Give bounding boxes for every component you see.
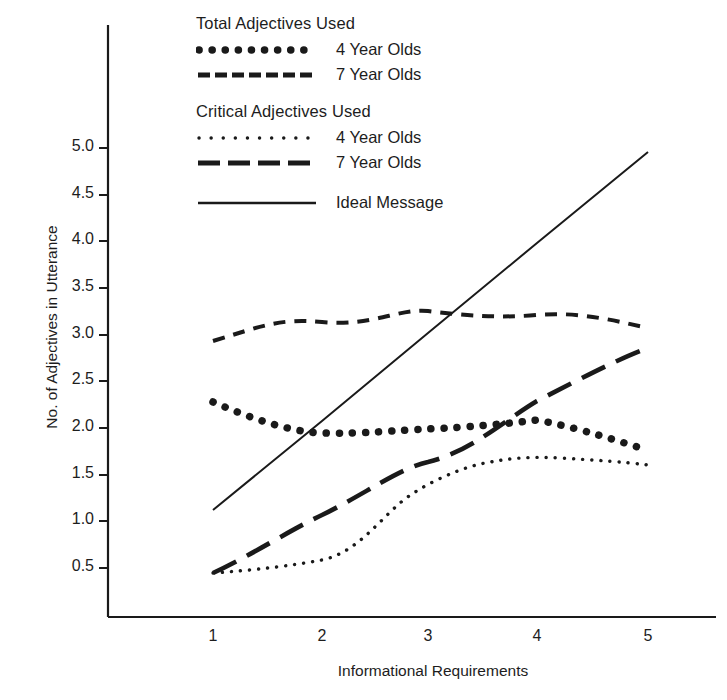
y-axis-title: No. of Adjectives in Utterance [43, 197, 61, 457]
legend-spacer [196, 175, 526, 190]
legend-item-ideal-message: Ideal Message [196, 190, 526, 215]
y-tick-label: 5.0 [46, 137, 94, 155]
x-tick-label: 5 [633, 627, 663, 645]
y-tick-label: 1.0 [46, 510, 94, 528]
legend-label-total-4-year-olds: 4 Year Olds [324, 40, 421, 59]
legend-swatch-solid-icon [196, 194, 324, 212]
y-tick-label: 1.5 [46, 464, 94, 482]
legend-group-total-heading: Total Adjectives Used [196, 14, 526, 33]
legend-swatch-thick-dotted-icon [196, 41, 324, 59]
chart-figure: 5.0 4.5 4.0 3.5 3.0 2.5 2.0 1.5 1.0 0.5 … [0, 0, 727, 700]
x-tick-label: 4 [522, 627, 552, 645]
legend-label-total-7-year-olds: 7 Year Olds [324, 65, 421, 84]
legend-item-critical-7-year-olds: 7 Year Olds [196, 150, 526, 175]
x-tick-label: 3 [413, 627, 443, 645]
y-axis-ticks [99, 148, 108, 568]
x-tick-label: 2 [307, 627, 337, 645]
legend-group-critical-heading: Critical Adjectives Used [196, 102, 526, 121]
series-total-4-year-olds [213, 402, 648, 450]
legend-label-ideal-message: Ideal Message [324, 193, 443, 212]
x-axis-title: Informational Requirements [213, 662, 653, 680]
series-critical-4-year-olds [213, 457, 648, 573]
legend-spacer [196, 87, 526, 102]
legend-item-total-7-year-olds: 7 Year Olds [196, 62, 526, 87]
legend-item-critical-4-year-olds: 4 Year Olds [196, 125, 526, 150]
legend-swatch-fine-dotted-icon [196, 129, 324, 147]
chart-legend: Total Adjectives Used 4 Year Olds 7 Year… [196, 14, 526, 215]
x-tick-label: 1 [198, 627, 228, 645]
legend-swatch-long-dashed-icon [196, 154, 324, 172]
y-tick-label: 0.5 [46, 557, 94, 575]
legend-label-critical-4-year-olds: 4 Year Olds [324, 128, 421, 147]
legend-item-total-4-year-olds: 4 Year Olds [196, 37, 526, 62]
legend-swatch-dashed-icon [196, 66, 324, 84]
series-total-7-year-olds [213, 311, 648, 341]
legend-label-critical-7-year-olds: 7 Year Olds [324, 153, 421, 172]
